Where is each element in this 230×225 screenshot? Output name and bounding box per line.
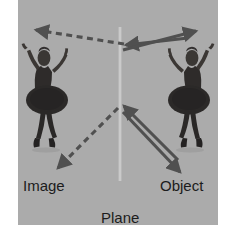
optics-plane-mirror-figure: Image Plane mirror Object [0,0,230,225]
label-object: Object [160,178,203,194]
cropped-caption-sliver [30,216,210,225]
label-image: Image [23,178,65,194]
